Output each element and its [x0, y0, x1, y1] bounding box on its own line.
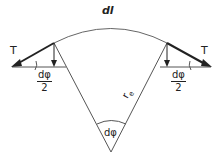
angle-arc-left — [35, 61, 37, 70]
vertical-arrowhead-left — [51, 60, 57, 67]
half-angle-right: dφ 2 — [171, 70, 186, 93]
tension-arrow-right — [167, 43, 205, 64]
arrowhead-left — [11, 59, 22, 67]
tension-label-right: T — [201, 45, 208, 56]
half-angle-right-denominator: 2 — [171, 82, 186, 93]
half-angle-left-denominator: 2 — [37, 82, 52, 93]
center-angle-label: dφ — [104, 128, 117, 138]
half-angle-left-numerator: dφ — [37, 70, 52, 82]
tension-arrow-left — [17, 43, 54, 64]
radius-right — [111, 43, 167, 152]
arrowhead-right — [201, 59, 212, 67]
half-angle-right-numerator: dφ — [171, 70, 186, 82]
diagram-canvas — [0, 0, 223, 163]
arc — [54, 29, 167, 44]
center-angle-arc — [97, 121, 126, 125]
radius-left — [54, 43, 111, 152]
angle-arc-right — [189, 61, 191, 70]
arc-length-label: dl — [102, 5, 114, 16]
tension-label-left: T — [10, 45, 17, 56]
vertical-arrowhead-right — [164, 60, 170, 67]
half-angle-left: dφ 2 — [37, 70, 52, 93]
